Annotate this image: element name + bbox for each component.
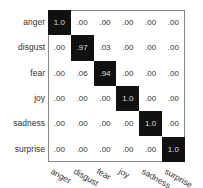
matrix-cell: .00: [48, 86, 71, 111]
row-label: anger: [23, 10, 45, 35]
matrix-cell: .00: [116, 111, 139, 136]
row-label: sadness: [13, 111, 45, 136]
matrix-cell: .00: [94, 10, 117, 35]
matrix-cell: .00: [139, 61, 162, 86]
row-label: surprise: [15, 137, 45, 162]
matrix-cell: .00: [94, 111, 117, 136]
matrix-cell: .00: [139, 10, 162, 35]
matrix-cell: .94: [94, 61, 117, 86]
matrix-cell: .03: [94, 35, 117, 60]
column-label: anger: [49, 166, 73, 186]
matrix-cell: .00: [94, 137, 117, 162]
matrix-cell: .00: [139, 86, 162, 111]
matrix-cell: .00: [48, 61, 71, 86]
column-label: joy: [117, 166, 131, 180]
matrix-cell: .00: [162, 111, 185, 136]
confusion-matrix: 1.0.00.00.00.00.00.00.97.03.00.00.00.00.…: [48, 10, 185, 162]
matrix-cell: .00: [48, 35, 71, 60]
row-label: disgust: [18, 35, 45, 60]
matrix-cell: .00: [48, 111, 71, 136]
matrix-cell: .00: [94, 86, 117, 111]
matrix-cell: 1.0: [116, 86, 139, 111]
matrix-cell: 1.0: [162, 137, 185, 162]
column-label: disgust: [72, 166, 100, 188]
matrix-cell: 1.0: [48, 10, 71, 35]
matrix-cell: .00: [139, 35, 162, 60]
matrix-cell: .00: [116, 137, 139, 162]
matrix-cell: 1.0: [139, 111, 162, 136]
matrix-cell: .00: [71, 10, 94, 35]
matrix-cell: .00: [48, 137, 71, 162]
matrix-cell: .00: [139, 137, 162, 162]
matrix-cell: .00: [116, 10, 139, 35]
row-label: fear: [30, 61, 45, 86]
matrix-cell: .06: [71, 61, 94, 86]
matrix-cell: .00: [162, 35, 185, 60]
row-label: joy: [34, 86, 45, 111]
matrix-cell: .00: [116, 35, 139, 60]
matrix-cell: .00: [162, 86, 185, 111]
matrix-cell: .00: [116, 61, 139, 86]
matrix-cell: .97: [71, 35, 94, 60]
matrix-cell: .00: [71, 111, 94, 136]
matrix-cell: .00: [71, 86, 94, 111]
matrix-cell: .00: [162, 61, 185, 86]
matrix-cell: .00: [162, 10, 185, 35]
matrix-cell: .00: [71, 137, 94, 162]
